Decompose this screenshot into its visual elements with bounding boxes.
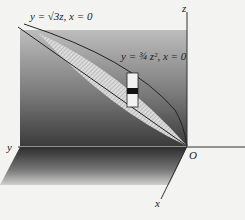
strip-band: [127, 88, 138, 94]
label-axis-x: x: [154, 197, 160, 209]
label-origin: O: [189, 149, 197, 161]
diagram: y = √3z, x = 0 y = ¾ z², x = 0 z y x O: [0, 0, 245, 220]
label-curve2: y = ¾ z², x = 0: [120, 50, 187, 62]
label-axis-z: z: [181, 2, 187, 14]
label-axis-y: y: [6, 141, 12, 153]
label-curve1: y = √3z, x = 0: [29, 10, 93, 22]
xy-floor: [0, 147, 187, 185]
